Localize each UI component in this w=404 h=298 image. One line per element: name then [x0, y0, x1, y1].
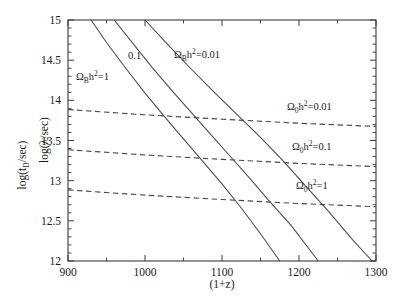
x-tick-label: 1300 [365, 266, 388, 278]
curve-dashed-3 [68, 110, 376, 127]
x-tick-label: 900 [59, 266, 77, 278]
curve-label-omega-b-1: ΩBh2=1 [76, 69, 109, 85]
y-axis-title-td-group: log(tD/sec) [16, 140, 31, 189]
figure-canvas: 90010001100120013001212.51313.51414.515 … [0, 0, 404, 298]
y-tick-label: 15 [50, 14, 62, 26]
y-tick-label: 13 [50, 175, 62, 187]
curve-label-omega-b-0p01: ΩBh2=0.01 [174, 47, 220, 63]
y-tick-label: 12.5 [41, 215, 61, 227]
y-tick-label: 14 [50, 94, 62, 106]
curve-dashed-5 [68, 190, 376, 207]
scatter-plot-svg: 90010001100120013001212.51313.51414.515 … [0, 0, 404, 298]
y-axis-title-lambda: log(λ/sec) [38, 117, 51, 163]
curve-annotations-layer: ΩBh2=10.1ΩBh2=0.01Ω0h2=0.01Ω0h2=0.1Ω0h2=… [76, 47, 332, 194]
x-axis-title: (1+z) [210, 278, 235, 291]
y-tick-label: 12 [50, 255, 62, 267]
curve-label-omega-0-0p01: Ω0h2=0.01 [287, 99, 332, 115]
y-tick-label: 14.5 [41, 54, 61, 66]
curve-dashed-4 [68, 150, 376, 167]
x-axis-title-group: (1+z) [210, 278, 235, 291]
curve-label-omega-0-1: Ω0h2=1 [296, 178, 328, 194]
x-tick-label: 1100 [211, 266, 234, 278]
y-axis-title-lambda-group: log(λ/sec) [38, 117, 51, 163]
curve-label-omega-b-0p1: 0.1 [128, 50, 141, 61]
x-tick-label: 1000 [134, 266, 157, 278]
x-tick-label: 1200 [288, 266, 311, 278]
y-axis-title-td: log(tD/sec) [16, 140, 31, 189]
curve-label-omega-0-0p1: Ω0h2=0.1 [292, 139, 332, 155]
